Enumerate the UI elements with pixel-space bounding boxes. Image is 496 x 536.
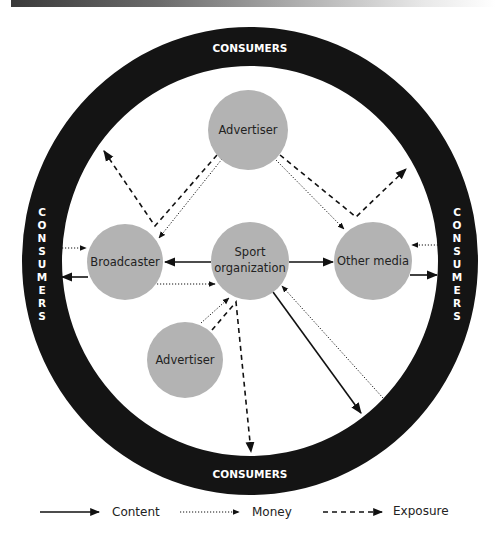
svg-text:E: E [38, 284, 45, 296]
node-sport-organization: Sport organization [211, 222, 289, 300]
exposure-arrows [104, 151, 406, 452]
svg-text:M: M [37, 271, 47, 283]
legend-money: Money [180, 505, 292, 519]
svg-text:R: R [38, 297, 46, 309]
svg-text:Broadcaster: Broadcaster [90, 255, 160, 269]
svg-text:Advertiser: Advertiser [218, 123, 277, 137]
svg-text:Advertiser: Advertiser [155, 353, 214, 367]
legend: Content Money Exposure [40, 504, 449, 519]
svg-text:O: O [453, 219, 462, 231]
svg-text:Money: Money [252, 505, 292, 519]
sport-media-diagram: CONSUMERS CONSUMERS C O N S U M E R S C … [0, 0, 496, 536]
svg-text:S: S [453, 310, 461, 322]
svg-text:S: S [453, 245, 461, 257]
svg-text:U: U [38, 258, 47, 270]
svg-text:Exposure: Exposure [393, 504, 449, 518]
svg-text:N: N [453, 232, 462, 244]
ring-label-left: C O N S U M E R S [37, 206, 47, 322]
svg-text:S: S [38, 310, 46, 322]
ring-label-top: CONSUMERS [213, 42, 288, 54]
ring-label-right: C O N S U M E R S [452, 206, 462, 322]
node-advertiser-bottom: Advertiser [147, 322, 223, 398]
node-other-media: Other media [334, 222, 412, 300]
svg-text:R: R [453, 297, 461, 309]
legend-exposure: Exposure [323, 504, 449, 518]
node-advertiser-top: Advertiser [208, 90, 288, 170]
svg-text:E: E [453, 284, 460, 296]
node-broadcaster: Broadcaster [87, 224, 163, 300]
svg-text:U: U [453, 258, 462, 270]
svg-text:C: C [453, 206, 461, 218]
svg-text:Sport: Sport [235, 245, 266, 259]
svg-text:Content: Content [112, 505, 160, 519]
svg-text:S: S [38, 245, 46, 257]
svg-text:N: N [38, 232, 47, 244]
legend-content: Content [40, 505, 160, 519]
svg-text:Other media: Other media [337, 254, 409, 268]
ring-label-bottom: CONSUMERS [213, 468, 288, 480]
svg-text:M: M [452, 271, 462, 283]
svg-text:O: O [38, 219, 47, 231]
svg-text:C: C [38, 206, 46, 218]
svg-text:organization: organization [214, 261, 286, 275]
